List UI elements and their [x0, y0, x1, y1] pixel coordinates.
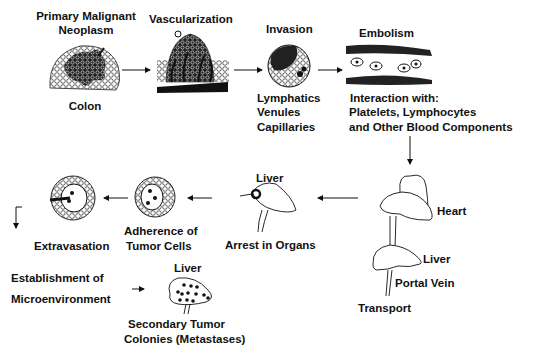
extravasation-caption: Extravasation	[34, 239, 109, 254]
metastasis-diagram: Primary Malignant Neoplasm Colon Vascula…	[0, 0, 533, 354]
metastases-caption-2: Colonies (Metastases)	[124, 332, 245, 347]
vascularization-title: Vascularization	[149, 12, 233, 27]
invasion-illustration	[268, 45, 310, 87]
heart-label: Heart	[437, 204, 466, 219]
invasion-caption-3: Capillaries	[257, 120, 315, 135]
portal-vein-label: Portal Vein	[395, 276, 454, 291]
primary-title-line2: Neoplasm	[28, 23, 144, 38]
embolism-caption-3: and Other Blood Components	[349, 120, 513, 135]
microenvironment-caption-1: Establishment of	[11, 271, 104, 286]
arrest-organ-label: Liver	[256, 171, 284, 186]
arrow-extravasation-down	[16, 207, 22, 228]
invasion-caption-1: Lymphatics	[257, 91, 320, 106]
arrest-caption: Arrest in Organs	[225, 238, 316, 253]
embolism-caption-2: Platelets, Lymphocytes	[349, 105, 476, 120]
primary-neoplasm-illustration	[50, 46, 120, 90]
embolism-illustration	[346, 45, 432, 85]
arrest-liver-illustration	[240, 183, 296, 232]
metastases-caption-1: Secondary Tumor	[128, 317, 225, 332]
metastases-liver-illustration	[169, 278, 212, 314]
metastases-organ-label: Liver	[174, 261, 202, 276]
embolism-caption-1: Interaction with:	[350, 91, 439, 106]
invasion-caption-2: Venules	[257, 105, 300, 120]
primary-caption: Colon	[60, 99, 110, 114]
transport-liver-label: Liver	[423, 252, 451, 267]
adherence-caption-2: Tumor Cells	[126, 239, 192, 254]
vascularization-illustration	[157, 31, 229, 93]
transport-label: Transport	[358, 301, 411, 316]
extravasation-illustration	[50, 176, 95, 220]
invasion-title: Invasion	[266, 22, 313, 37]
primary-title-line1: Primary Malignant	[28, 9, 144, 24]
microenvironment-caption-2: Microenvironment	[11, 292, 111, 307]
embolism-title: Embolism	[359, 26, 414, 41]
adherence-illustration	[135, 177, 175, 217]
adherence-caption-1: Adherence of	[124, 224, 198, 239]
